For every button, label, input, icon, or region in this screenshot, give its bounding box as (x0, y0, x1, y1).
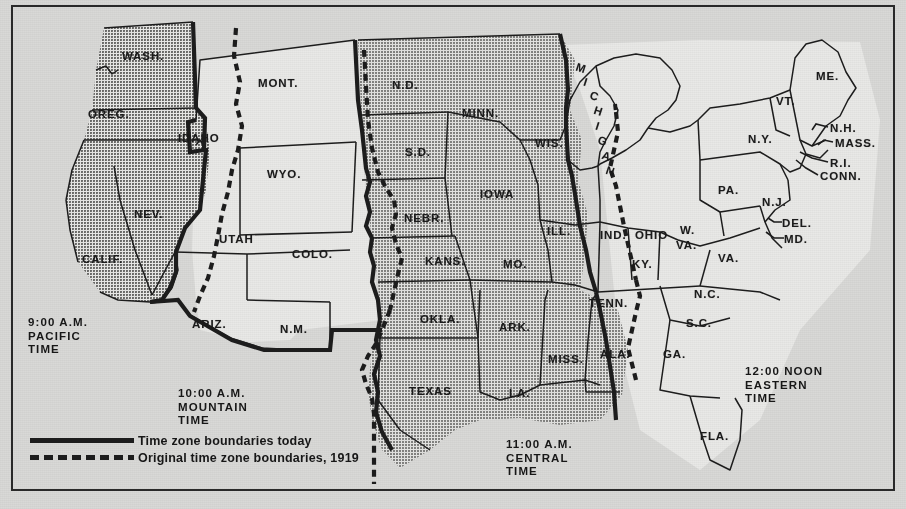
time-zone-label-pacific: 9:00 A.M.PACIFICTIME (28, 316, 88, 357)
time-zone-label-line: MOUNTAIN (178, 401, 248, 415)
time-zone-label-line: TIME (178, 414, 248, 428)
state-label: IOWA (480, 188, 514, 200)
time-zone-label-central: 11:00 A.M.CENTRALTIME (506, 438, 573, 479)
state-label: N.J. (762, 196, 787, 208)
time-zone-label-line: TIME (28, 343, 88, 357)
time-zone-label-line: 11:00 A.M. (506, 438, 573, 452)
state-label: MINN. (462, 107, 499, 119)
state-label: W. (680, 224, 695, 236)
state-label: VA. (718, 252, 739, 264)
state-label: MD. (784, 233, 808, 245)
state-label: MONT. (258, 77, 298, 89)
state-label: PA. (718, 184, 739, 196)
dashed-line-swatch-icon (30, 455, 134, 460)
state-label: TENN. (589, 297, 628, 309)
state-label: OREG. (88, 108, 130, 120)
state-label: VT. (776, 95, 795, 107)
state-label: CONN. (820, 170, 862, 182)
state-label: IND. (600, 229, 627, 241)
state-label: IDAHO (178, 132, 220, 144)
state-label: NEBR. (404, 212, 444, 224)
state-label: FLA. (700, 430, 729, 442)
state-label: MASS. (835, 137, 876, 149)
state-label: N.H. (830, 122, 857, 134)
state-label: MO. (503, 258, 527, 270)
state-label: CALIF. (82, 253, 123, 265)
state-label: UTAH (219, 233, 254, 245)
state-label: N.C. (694, 288, 721, 300)
state-label: ME. (816, 70, 839, 82)
legend-label-original: Original time zone boundaries, 1919 (138, 451, 359, 465)
time-zone-label-eastern: 12:00 NOONEASTERNTIME (745, 365, 823, 406)
legend-row-current: Time zone boundaries today (30, 432, 359, 449)
state-label: ARK. (499, 321, 531, 333)
state-label: WYO. (267, 168, 301, 180)
time-zone-label-mountain: 10:00 A.M.MOUNTAINTIME (178, 387, 248, 428)
time-zone-label-line: EASTERN (745, 379, 823, 393)
legend: Time zone boundaries today Original time… (30, 432, 359, 466)
state-label: N.M. (280, 323, 308, 335)
state-label: WASH. (122, 50, 164, 62)
state-label: NEV. (134, 208, 163, 220)
legend-label-current: Time zone boundaries today (138, 434, 312, 448)
state-label: ARIZ. (192, 318, 227, 330)
state-label: R.I. (830, 157, 852, 169)
state-label: KY. (632, 258, 653, 270)
state-label: GA. (663, 348, 686, 360)
time-zone-label-line: PACIFIC (28, 330, 88, 344)
solid-line-swatch-icon (30, 438, 134, 443)
timezone-map-page: WASH.OREG.IDAHOMONT.N.D.S.D.MINN.WIS.WYO… (0, 0, 906, 509)
state-label: OHIO (635, 229, 668, 241)
state-label: ALA. (600, 348, 630, 360)
state-label: ILL. (547, 225, 571, 237)
state-label: MISS. (548, 353, 584, 365)
state-label: OKLA. (420, 313, 460, 325)
state-label: S.C. (686, 317, 712, 329)
state-label: COLO. (292, 248, 333, 260)
time-zone-label-line: 9:00 A.M. (28, 316, 88, 330)
time-zone-label-line: TIME (745, 392, 823, 406)
state-label: DEL. (782, 217, 812, 229)
map-frame-border (11, 5, 895, 491)
legend-row-original: Original time zone boundaries, 1919 (30, 449, 359, 466)
time-zone-label-line: 10:00 A.M. (178, 387, 248, 401)
state-label: N.D. (392, 79, 419, 91)
time-zone-label-line: TIME (506, 465, 573, 479)
state-label: VA. (676, 239, 697, 251)
state-label: S.D. (405, 146, 431, 158)
state-label: WIS. (535, 137, 564, 149)
state-label: TEXAS (409, 385, 452, 397)
time-zone-label-line: 12:00 NOON (745, 365, 823, 379)
state-label: N.Y. (748, 133, 773, 145)
state-label: KANS. (425, 255, 465, 267)
time-zone-label-line: CENTRAL (506, 452, 573, 466)
state-label: LA. (509, 387, 530, 399)
